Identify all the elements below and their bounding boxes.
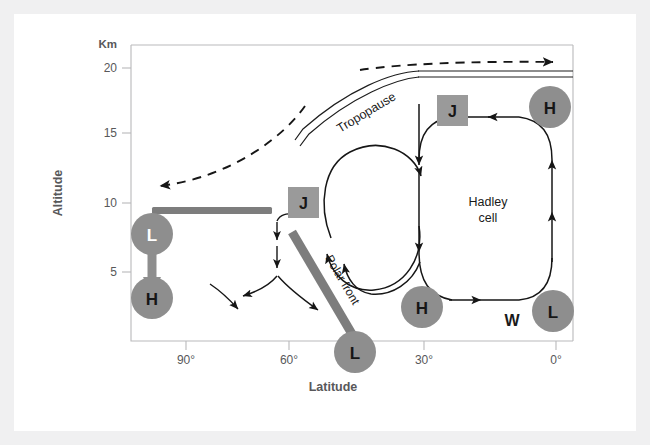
pressure-marker-polar-front-low: L (334, 331, 376, 373)
y-axis-ticks (122, 68, 131, 272)
x-axis-title: Latitude (309, 380, 358, 394)
x-tick-label-60: 60° (280, 353, 298, 367)
pressure-marker-label: L (147, 226, 157, 245)
hadley-cell-label-line1: Hadley (469, 195, 509, 209)
hadley-cell-label-line2: cell (479, 211, 498, 225)
diagram-stage: Km 20 15 10 5 Altitude 90° 60° 30° 0° La… (0, 0, 650, 445)
jet-stream-label: J (299, 195, 308, 212)
pressure-marker-polar-high: H (131, 277, 173, 319)
x-tick-label-0: 0° (550, 353, 562, 367)
circulation-diagram-svg: Km 20 15 10 5 Altitude 90° 60° 30° 0° La… (0, 0, 650, 445)
pressure-marker-equatorial-low: L (532, 290, 574, 332)
pressure-marker-subtropical-high: H (401, 286, 443, 328)
x-tick-label-90: 90° (177, 353, 195, 367)
x-tick-label-30: 30° (415, 353, 433, 367)
pressure-marker-label: H (544, 99, 556, 118)
y-axis-unit-label: Km (98, 38, 117, 50)
pressure-marker-polar-low: L (131, 213, 173, 255)
pressure-marker-upper-high: H (529, 86, 571, 128)
y-tick-label-5: 5 (110, 265, 117, 279)
y-axis-title: Altitude (51, 170, 65, 217)
jet-stream-label: J (448, 103, 457, 120)
tropopause-label: Tropopause (334, 89, 398, 135)
y-tick-label-20: 20 (104, 61, 118, 75)
pressure-marker-label: H (146, 290, 158, 309)
upper-flow-arrow-east (360, 62, 553, 70)
westerlies-label: W (504, 312, 520, 329)
pressure-marker-label: L (548, 303, 558, 322)
surface-divergence-arrows (210, 276, 318, 310)
jet-stream-polar: J (288, 187, 319, 218)
jet-stream-subtropical: J (437, 95, 468, 126)
pressure-marker-label: H (416, 299, 428, 318)
polar-tropopause-bar (152, 207, 272, 214)
y-tick-label-15: 15 (104, 126, 118, 140)
upper-flow-arrow-west (160, 106, 305, 186)
pressure-marker-label: L (350, 344, 360, 363)
y-tick-label-10: 10 (104, 196, 118, 210)
